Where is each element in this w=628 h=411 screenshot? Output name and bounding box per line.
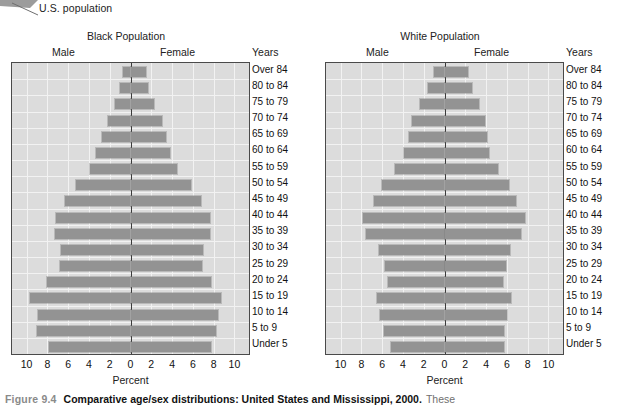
- chart-title-white: White Population: [314, 30, 628, 42]
- bar-female: [131, 213, 210, 223]
- x-tick-label: 2: [148, 358, 154, 370]
- age-group-label: 70 to 74: [566, 112, 602, 123]
- pyramid-row: [326, 63, 563, 79]
- x-tick-label: 0: [128, 358, 134, 370]
- pyramid-row: [12, 128, 249, 144]
- x-tick-label: 4: [169, 358, 175, 370]
- bar-female: [445, 245, 510, 255]
- bar-female: [131, 342, 211, 352]
- age-group-label: 35 to 39: [252, 225, 288, 236]
- pyramid-row: [12, 225, 249, 241]
- x-tick-label: 10: [335, 358, 347, 370]
- bar-female: [445, 99, 479, 109]
- age-group-label: 10 to 14: [252, 306, 288, 317]
- bar-male: [47, 277, 130, 287]
- pyramid-row: [12, 338, 249, 354]
- bar-male: [384, 326, 444, 336]
- age-group-labels-black: Over 8480 to 8475 to 7970 to 7465 to 696…: [252, 62, 314, 355]
- pyramid-row: [326, 289, 563, 305]
- age-group-label: 80 to 84: [252, 80, 288, 91]
- bar-female: [131, 245, 204, 255]
- x-tick-label: 6: [504, 358, 510, 370]
- pyramid-row: [326, 225, 563, 241]
- age-group-label: 35 to 39: [566, 225, 602, 236]
- bar-female: [445, 213, 525, 223]
- bar-female: [131, 83, 149, 93]
- bar-male: [404, 148, 445, 158]
- x-axis-ticks-black: 1086420246810: [0, 358, 261, 372]
- age-group-label: 60 to 64: [252, 144, 288, 155]
- pyramid-row: [326, 128, 563, 144]
- pyramid-row: [326, 306, 563, 322]
- bar-male: [382, 180, 444, 190]
- x-tick-label: 8: [358, 358, 364, 370]
- bar-male: [377, 293, 445, 303]
- bar-female: [131, 180, 191, 190]
- bar-female: [445, 67, 469, 77]
- pyramid-row: [12, 306, 249, 322]
- pyramid-row: [326, 257, 563, 273]
- pyramid-row: [12, 192, 249, 208]
- x-tick-label: 6: [190, 358, 196, 370]
- bar-female: [445, 261, 506, 271]
- bar-male: [391, 342, 444, 352]
- age-group-label: Over 84: [252, 64, 288, 75]
- bar-male: [379, 245, 444, 255]
- pyramid-row: [326, 160, 563, 176]
- bar-male: [428, 83, 445, 93]
- x-axis-label-white: Percent: [314, 374, 575, 386]
- bar-female: [131, 148, 171, 158]
- x-tick-label: 8: [44, 358, 50, 370]
- x-tick-label: 10: [543, 358, 555, 370]
- x-tick-label: 2: [421, 358, 427, 370]
- pyramid-row: [12, 112, 249, 128]
- age-group-label: Over 84: [566, 64, 602, 75]
- bar-male: [115, 99, 131, 109]
- bar-female: [131, 310, 218, 320]
- x-tick-label: 4: [400, 358, 406, 370]
- age-group-label: 75 to 79: [252, 96, 288, 107]
- bar-female: [131, 196, 202, 206]
- x-axis-label-black: Percent: [0, 374, 261, 386]
- age-group-label: Under 5: [566, 338, 602, 349]
- pyramid-row: [12, 209, 249, 225]
- pyramid-row: [12, 273, 249, 289]
- age-group-label: 20 to 24: [252, 274, 288, 285]
- age-group-label: 50 to 54: [252, 177, 288, 188]
- bar-male: [420, 99, 445, 109]
- x-tick-label: 8: [525, 358, 531, 370]
- bar-female: [131, 164, 178, 174]
- bar-male: [96, 148, 130, 158]
- age-group-label: 15 to 19: [566, 290, 602, 301]
- bar-male: [380, 310, 444, 320]
- bar-male: [385, 261, 444, 271]
- age-group-label: 25 to 29: [252, 258, 288, 269]
- age-group-label: 30 to 34: [252, 241, 288, 252]
- bar-male: [76, 180, 130, 190]
- age-group-label: 40 to 44: [252, 209, 288, 220]
- bar-female: [445, 326, 504, 336]
- age-group-label: 80 to 84: [566, 80, 602, 91]
- x-tick-label: 2: [107, 358, 113, 370]
- male-header-black: Male: [52, 46, 75, 58]
- age-group-label: 55 to 59: [566, 161, 602, 172]
- pyramid-row: [326, 322, 563, 338]
- chart-panel-white-population: White Population Male Female Years 10864…: [314, 26, 628, 386]
- x-tick-label: 8: [211, 358, 217, 370]
- age-group-label: 65 to 69: [252, 128, 288, 139]
- pyramid-row: [12, 241, 249, 257]
- bar-female: [131, 67, 147, 77]
- bar-male: [363, 213, 444, 223]
- bar-male: [123, 67, 130, 77]
- male-header-white: Male: [366, 46, 389, 58]
- bar-male: [374, 196, 445, 206]
- female-header-white: Female: [474, 46, 509, 58]
- bar-female: [445, 180, 509, 190]
- years-header-white: Years: [566, 46, 592, 58]
- age-group-label: 45 to 49: [252, 193, 288, 204]
- bar-female: [131, 229, 210, 239]
- age-group-label: 30 to 34: [566, 241, 602, 252]
- bar-male: [409, 132, 444, 142]
- pyramid-row: [12, 95, 249, 111]
- x-tick-label: 10: [21, 358, 33, 370]
